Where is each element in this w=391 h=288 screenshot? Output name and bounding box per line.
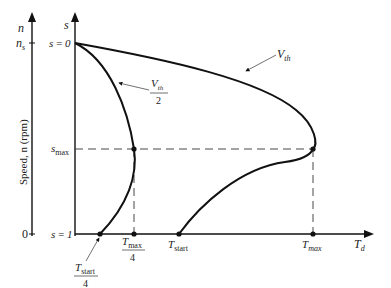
half-voltage-curve xyxy=(75,43,135,234)
slip-axis xyxy=(71,12,79,236)
s1-tick-label: s = 1 xyxy=(51,228,73,240)
td-axis-symbol: Td xyxy=(354,237,366,253)
s0-tick-label: s = 0 xyxy=(49,37,71,49)
svg-text:Vth: Vth xyxy=(151,77,164,92)
svg-text:4: 4 xyxy=(83,278,88,288)
svg-text:4: 4 xyxy=(130,252,135,263)
torque-axis xyxy=(75,230,374,238)
speed-axis-label: Speed, n (rpm) xyxy=(17,119,30,185)
full-voltage-curve xyxy=(75,43,315,234)
svg-text:Tstart: Tstart xyxy=(75,261,96,276)
vth-leader xyxy=(246,55,276,71)
ns-tick-label: ns xyxy=(16,36,25,52)
key-points xyxy=(97,146,315,236)
tstart4-label: Tstart 4 xyxy=(74,261,98,288)
vth-half-leader xyxy=(119,83,149,90)
tmax-label: Tmax xyxy=(302,238,322,253)
n-axis-symbol: n xyxy=(18,21,24,35)
vth-half-label: Vth 2 xyxy=(150,77,168,106)
tmax4-label: Tmax 4 xyxy=(122,235,145,263)
speed-axis xyxy=(28,12,36,236)
vth-label: Vth xyxy=(277,47,291,63)
svg-text:2: 2 xyxy=(156,95,161,106)
zero-tick-label: 0 xyxy=(22,227,28,241)
smax-tick-label: smax xyxy=(51,142,69,157)
tstart4-leader xyxy=(86,238,99,261)
tstart-label: Tstart xyxy=(168,238,189,253)
svg-text:Tmax: Tmax xyxy=(122,235,142,250)
s-axis-symbol: s xyxy=(64,18,69,32)
torque-speed-diagram: n ns 0 Speed, n (rpm) s s = 0 smax s = 1… xyxy=(0,0,391,288)
